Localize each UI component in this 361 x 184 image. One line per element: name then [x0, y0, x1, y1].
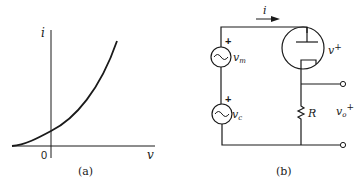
output-terminal-top — [340, 81, 345, 86]
figure-canvas: i 0 v (a) i + vm + vc v+ R — [0, 0, 361, 184]
panel-a-iv-graph: i 0 v (a) — [12, 26, 155, 178]
y-axis-label: i — [41, 26, 45, 40]
current-label: i — [263, 4, 267, 17]
current-arrow-icon — [271, 16, 280, 22]
caption-a: (a) — [78, 165, 93, 178]
vc-polarity: + — [225, 93, 231, 105]
vm-polarity: + — [225, 35, 231, 47]
tube-voltage-label: v+ — [328, 42, 342, 57]
iv-curve — [12, 41, 117, 146]
vm-label: vm — [233, 51, 246, 65]
vc-label: vc — [232, 108, 242, 122]
origin-label: 0 — [41, 149, 47, 161]
top-wire — [221, 27, 307, 47]
vacuum-tube-diode-icon — [282, 27, 324, 69]
output-voltage-label: vo+ — [336, 102, 354, 119]
bottom-wire — [222, 124, 343, 145]
resistor-icon — [298, 104, 304, 145]
panel-b-circuit: i + vm + vc v+ R vo+ (b) — [211, 4, 354, 178]
caption-b: (b) — [276, 165, 292, 178]
resistor-label: R — [307, 107, 316, 120]
vc-sine-glyph — [215, 112, 229, 117]
output-terminal-bottom — [340, 142, 345, 147]
vm-sine-glyph — [214, 55, 228, 60]
x-axis-label: v — [147, 148, 154, 162]
